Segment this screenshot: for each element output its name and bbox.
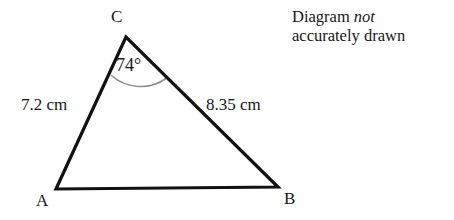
diagram-note-line-2: accurately drawn xyxy=(292,26,452,45)
vertex-label-c: C xyxy=(111,8,122,25)
vertex-label-b: B xyxy=(284,190,295,207)
diagram-note-line-1: Diagram not xyxy=(292,7,452,26)
diagram-note-emphasis: not xyxy=(354,7,375,26)
diagram-note: Diagram not accurately drawn xyxy=(292,7,452,46)
vertex-label-a: A xyxy=(36,192,48,209)
side-length-label-ac: 7.2 cm xyxy=(21,96,67,113)
side-length-label-bc: 8.35 cm xyxy=(206,96,261,113)
angle-label-c: 74° xyxy=(116,56,141,74)
diagram-note-prefix: Diagram xyxy=(292,7,354,26)
diagram-canvas: C A B 74° 7.2 cm 8.35 cm Diagram not acc… xyxy=(0,0,454,220)
angle-arc-at-c xyxy=(112,76,167,87)
